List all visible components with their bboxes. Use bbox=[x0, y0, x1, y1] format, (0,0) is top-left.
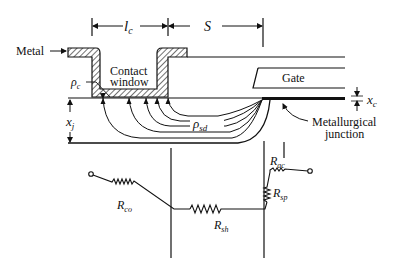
resistor-ac-label: Rac bbox=[269, 154, 285, 170]
sd-resistivity-label: ρsd bbox=[192, 116, 208, 133]
gate-label: Gate bbox=[282, 71, 305, 85]
oxide-thickness-dim bbox=[351, 87, 363, 111]
contact-resistivity-label: ρc bbox=[70, 75, 81, 91]
contact-resistance-diagram: lc S Metal Contact window ρc Gate xc xj bbox=[0, 0, 394, 272]
resistor-sp-label: Rsp bbox=[272, 186, 287, 202]
contact-window-label-2: window bbox=[110, 75, 149, 89]
spacing-label: S bbox=[204, 19, 211, 34]
resistor-sh-label: Rsh bbox=[213, 218, 228, 234]
junction-depth-label: xj bbox=[65, 114, 75, 131]
resistor-co-label: Rco bbox=[116, 198, 132, 214]
metallurgical-junction-label-2: junction bbox=[324, 127, 364, 141]
current-arrowheads bbox=[101, 98, 171, 104]
metal-label: Metal bbox=[16, 44, 45, 58]
oxide-thickness-label: xc bbox=[366, 92, 377, 109]
dimension-lines bbox=[92, 18, 263, 47]
contact-length-label: lc bbox=[124, 18, 133, 36]
